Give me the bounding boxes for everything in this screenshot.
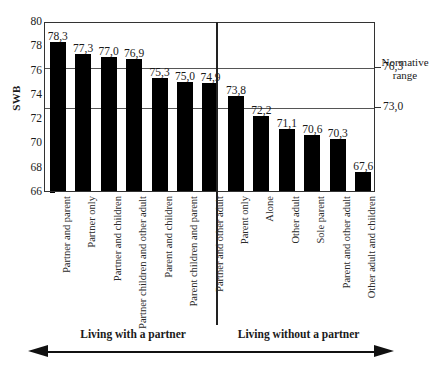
bar[interactable] (355, 172, 371, 191)
normative-lower-tick (375, 107, 381, 108)
bar-value-label: 76,9 (124, 48, 144, 60)
bar[interactable] (304, 135, 320, 191)
bar-value-label: 72,2 (251, 105, 271, 117)
y-tick-label: 72 (16, 113, 42, 125)
bar-value-label: 67,6 (353, 161, 373, 173)
x-category-label: Parent children and parent (188, 196, 199, 307)
bar[interactable] (126, 59, 142, 191)
x-category-label: Partner and children (112, 196, 123, 281)
bar-slot: 77,3 (70, 23, 95, 191)
bar-slot: 76,9 (121, 23, 146, 191)
bar[interactable] (177, 82, 193, 191)
normative-range-caption-line1: Normative (380, 56, 430, 69)
bar-slot: 71,1 (274, 23, 299, 191)
chart-figure: SWB 8078767472706866 78,377,377,076,975,… (0, 0, 431, 366)
bar-value-label: 74,9 (200, 72, 220, 84)
bar-value-label: 73,8 (226, 85, 246, 97)
bar-value-label: 70,6 (302, 124, 322, 136)
x-category-label: Parent and children (163, 196, 174, 278)
x-category-label: Parent and other adult (341, 196, 352, 288)
bar[interactable] (330, 139, 346, 191)
y-tick-label: 74 (16, 89, 42, 101)
x-category-label: Sole parent (315, 196, 326, 244)
arrow-head-left-icon (28, 345, 48, 357)
bar-value-label: 75,3 (150, 67, 170, 79)
x-category-label: Partner and parent (61, 196, 72, 273)
bar-slot: 78,3 (45, 23, 70, 191)
x-category-label: Partner and other adult (214, 196, 225, 292)
bar-value-label: 77,3 (73, 43, 93, 55)
bar-value-label: 75,0 (175, 71, 195, 83)
group-label-with-partner: Living with a partner (43, 328, 223, 340)
bar-slot: 74,9 (198, 23, 223, 191)
x-category-label: Parent only (239, 196, 250, 244)
bar-slot: 67,6 (351, 23, 376, 191)
normative-range-caption-line2: range (380, 69, 430, 82)
axis-range-arrow (47, 351, 382, 353)
bar[interactable] (75, 54, 91, 191)
arrow-head-right-icon (374, 345, 394, 357)
x-category-label: Partner children and other adult (137, 196, 148, 329)
bar[interactable] (228, 96, 244, 191)
bar-slot: 70,6 (300, 23, 325, 191)
bar-value-label: 78,3 (48, 31, 68, 43)
y-tick-label: 76 (16, 65, 42, 77)
bar[interactable] (279, 129, 295, 191)
y-tick-mark (50, 192, 55, 193)
y-tick-label: 80 (16, 16, 42, 28)
y-tick-label: 70 (16, 138, 42, 150)
bar-slot: 77,0 (96, 23, 121, 191)
y-tick-label: 66 (16, 186, 42, 198)
normative-lower-label: 73,0 (383, 100, 403, 112)
x-category-label: Other adult (290, 196, 301, 244)
bar-value-label: 77,0 (99, 46, 119, 58)
bar[interactable] (253, 116, 269, 191)
plot-area: 78,377,377,076,975,375,074,973,872,271,1… (44, 22, 375, 192)
bar-slot: 72,2 (249, 23, 274, 191)
group-label-without-partner: Living without a partner (209, 328, 389, 340)
bar-slot: 70,3 (325, 23, 350, 191)
y-tick-label: 78 (16, 41, 42, 53)
x-category-label: Alone (264, 196, 275, 222)
bar[interactable] (101, 57, 117, 191)
y-axis-ticks: 8078767472706866 (10, 0, 42, 170)
bar-value-label: 70,3 (328, 128, 348, 140)
bar-value-label: 71,1 (277, 118, 297, 130)
x-category-label: Partner only (86, 196, 97, 248)
normative-range-caption: Normative range (380, 56, 430, 81)
bar-series: 78,377,377,076,975,375,074,973,872,271,1… (45, 23, 374, 191)
bar-slot: 75,3 (147, 23, 172, 191)
y-tick-label: 68 (16, 162, 42, 174)
bar[interactable] (50, 42, 66, 191)
bar[interactable] (152, 78, 168, 191)
bar-slot: 75,0 (172, 23, 197, 191)
bar-slot: 73,8 (223, 23, 248, 191)
x-category-label: Other adult and children (366, 196, 377, 298)
